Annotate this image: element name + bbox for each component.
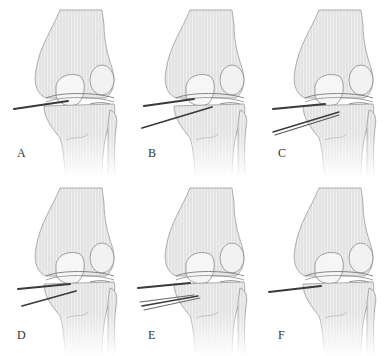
panel-label: E	[148, 328, 155, 343]
panel-label: C	[278, 146, 286, 161]
panel-d: D	[0, 178, 130, 356]
panel-label: D	[17, 328, 26, 343]
panel-label: A	[17, 146, 26, 161]
panel-f: F	[259, 178, 389, 356]
panel-b: B	[130, 0, 260, 178]
panel-label: F	[278, 328, 285, 343]
panel-e: E	[130, 178, 260, 356]
panel-a: A	[0, 0, 130, 178]
panel-label: B	[148, 146, 156, 161]
panel-c: C	[259, 0, 389, 178]
